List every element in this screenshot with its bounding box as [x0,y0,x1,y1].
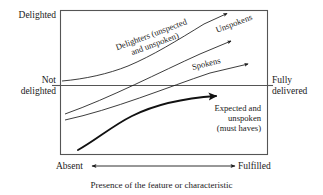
curve-label-expected-must-haves: Expected and unspoken (must haves) [164,103,261,133]
axis-label-fulfilled: Fulfilled [238,161,271,172]
axis-label-fully-delivered: Fully delivered [272,75,322,97]
axis-label-not-delighted: Not delighted [2,75,56,97]
diagram-caption: Presence of the feature or characteristi… [0,180,323,191]
axis-label-delighted: Delighted [4,10,56,21]
kano-model-diagram: Delighted Not delighted Fully delivered … [0,0,323,195]
axis-label-absent: Absent [56,161,83,172]
